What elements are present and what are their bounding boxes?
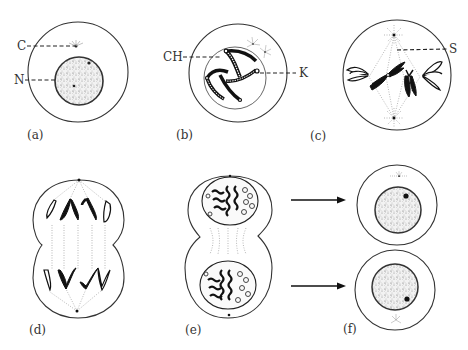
chromosomes (347, 62, 442, 97)
arrows (291, 197, 346, 290)
centriole-icon (229, 175, 231, 177)
panel-c: S (c) (310, 20, 457, 143)
centriole-icon (393, 117, 396, 120)
panel-label-a: (a) (27, 128, 44, 142)
centriole-icon (76, 310, 79, 313)
spindle-fibers (210, 228, 246, 254)
panel-label-e: (e) (185, 323, 201, 337)
panel-a: C N (a) (14, 22, 128, 142)
chromosomes-upper (47, 198, 111, 222)
panel-b: CH K (b) (163, 24, 309, 142)
panel-label-c: (c) (310, 129, 326, 143)
panel-d: (d) (29, 179, 124, 338)
nucleus (372, 264, 418, 310)
daughter-nucleus-bottom (200, 261, 256, 309)
annotation-n: N (14, 73, 25, 87)
panel-label-d: (d) (29, 323, 46, 337)
chromosomes (206, 49, 260, 101)
nuclear-envelope (204, 47, 266, 109)
arrow-right-icon (337, 197, 346, 204)
daughter-nucleus-top (202, 177, 258, 225)
centrosome-icon (390, 171, 408, 177)
annotation-c: C (17, 39, 26, 53)
nucleus (375, 187, 421, 233)
annotation-ch: CH (163, 50, 183, 64)
centriole-icon (393, 34, 396, 37)
spindle-fibers (50, 180, 106, 311)
panel-label-b: (b) (176, 128, 193, 142)
annotation-k: K (299, 66, 309, 80)
panel-label-f: (f) (343, 322, 357, 336)
centriole-icon (78, 179, 81, 182)
annotation-s: S (449, 42, 457, 56)
cell-membrane (33, 180, 124, 318)
panel-f: (f) (343, 165, 437, 336)
panel-e: (e) (185, 175, 272, 337)
arrow-right-icon (337, 283, 346, 290)
mitosis-diagram: C N (a) CH K (0, 0, 468, 350)
leader-line-s (397, 49, 447, 50)
chromosomes-lower (44, 268, 110, 290)
nucleus (55, 57, 103, 105)
centriole-icon (228, 314, 231, 317)
centrosome-icon (391, 314, 401, 323)
nucleolus (404, 296, 409, 301)
nucleolus (403, 193, 408, 198)
